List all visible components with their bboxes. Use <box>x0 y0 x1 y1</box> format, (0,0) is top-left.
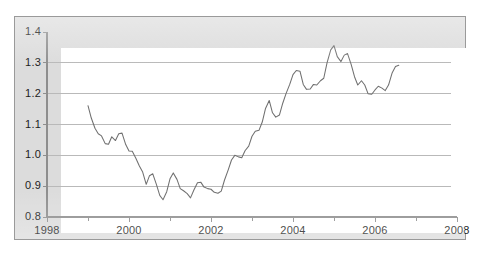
y-tick-label: 0.9 <box>11 179 41 191</box>
chart-figure: 0.80.91.01.11.21.31.41998200020022004200… <box>0 0 493 257</box>
x-tick-label: 2004 <box>271 224 315 236</box>
y-tick-label: 0.8 <box>11 210 41 222</box>
y-tick-label: 1.1 <box>11 118 41 130</box>
y-tick-label: 1.4 <box>11 25 41 37</box>
y-tick-label: 1.0 <box>11 148 41 160</box>
series-layer <box>15 17 493 257</box>
y-tick-label: 1.2 <box>11 87 41 99</box>
x-tick-label: 2000 <box>107 224 151 236</box>
y-tick-label: 1.3 <box>11 56 41 68</box>
x-tick-label: 2008 <box>435 224 479 236</box>
x-tick-label: 2006 <box>353 224 397 236</box>
x-tick-label: 1998 <box>25 224 69 236</box>
chart-panel: 0.80.91.01.11.21.31.41998200020022004200… <box>14 16 466 240</box>
series-line-0 <box>88 46 399 200</box>
x-tick-label: 2002 <box>189 224 233 236</box>
